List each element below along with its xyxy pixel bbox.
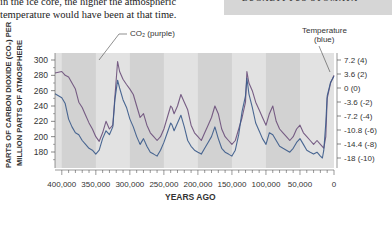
right-tick-label: 7.2 (4) xyxy=(344,56,367,65)
left-tick-label: 260 xyxy=(34,86,48,96)
temperature-annotation-label: Temperature xyxy=(302,26,347,35)
x-tick-label: 150,000 xyxy=(217,180,246,189)
x-tick-label: 0 xyxy=(332,180,337,189)
right-tick-label: -7.2 (-4) xyxy=(344,112,373,121)
x-tick-label: 300,000 xyxy=(115,180,144,189)
right-tick-label: 0 (0) xyxy=(344,84,361,93)
right-tick-label: -18 (-10) xyxy=(344,154,375,163)
x-tick-label: 250,000 xyxy=(149,180,178,189)
x-tick-label: 200,000 xyxy=(183,180,212,189)
x-axis-title: YEARS AGO xyxy=(165,192,216,202)
left-tick-label: 280 xyxy=(34,70,48,80)
background-band xyxy=(130,53,164,168)
right-tick-label: -14.4 (-8) xyxy=(344,140,377,149)
left-tick-label: 240 xyxy=(34,101,48,111)
temperature-annotation-label-2: (blue) xyxy=(314,35,334,44)
left-tick-label: 220 xyxy=(34,116,48,126)
x-tick-label: 50,000 xyxy=(288,180,313,189)
right-tick-label: -3.6 (-2) xyxy=(344,98,373,107)
left-tick-label: 200 xyxy=(34,132,48,142)
left-tick-label: 300 xyxy=(34,55,48,65)
x-tick-label: 350,000 xyxy=(81,180,110,189)
right-tick-label: 3.6 (2) xyxy=(344,70,367,79)
co2-annotation-label: CO₂ (purple) xyxy=(130,29,175,38)
x-tick-label: 100,000 xyxy=(251,180,280,189)
right-tick-label: -10.8 (-6) xyxy=(344,126,377,135)
left-tick-label: 180 xyxy=(34,147,48,157)
x-tick-label: 400,000 xyxy=(47,180,76,189)
